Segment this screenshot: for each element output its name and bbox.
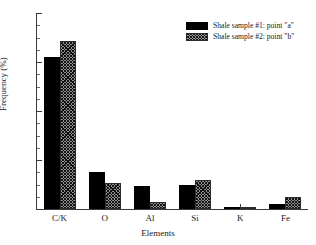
bar-k-series-0 [224,207,240,209]
y-axis-title: Frequency (%) [0,57,8,111]
y-axis-minor-tick [37,87,40,88]
legend: Shale sample #1: point "a" Shale sample … [186,22,294,44]
y-axis-minor-tick [37,74,40,75]
x-axis-tick [60,204,61,209]
x-axis-tick-label: K [237,213,244,223]
y-axis-minor-tick [37,50,40,51]
y-axis-tick [37,111,42,112]
y-axis-minor-tick [37,185,40,186]
x-axis-tick [105,204,106,209]
bar-o-series-1 [105,183,121,209]
legend-swatch-series-0-icon [186,22,208,30]
legend-label: Shale sample #2: point "b" [213,33,294,41]
y-axis-minor-tick [37,25,40,26]
y-axis-minor-tick [37,38,40,39]
y-axis-tick [37,209,42,210]
x-axis-tick-label: O [102,213,109,223]
y-axis-minor-tick [37,172,40,173]
y-axis-tick [37,160,42,161]
bar-al-series-0 [134,186,150,209]
x-axis-tick [285,204,286,209]
bar-si-series-0 [179,185,195,210]
bar-fe-series-1 [285,197,301,209]
legend-item: Shale sample #1: point "a" [186,22,294,30]
bar-c-k-series-1 [60,41,76,209]
y-axis-minor-tick [37,197,40,198]
bar-fe-series-0 [269,204,285,209]
x-axis-tick [150,204,151,209]
x-axis-tick-label: C/K [52,213,67,223]
legend-label: Shale sample #1: point "a" [213,22,294,30]
x-axis-tick-label: Si [191,213,199,223]
legend-swatch-series-1-icon [186,33,208,41]
bar-chart-figure: 020406080 C/KOAlSiKFe Frequency (%) Elem… [0,0,316,245]
x-axis-title: Elements [0,228,316,238]
bar-o-series-0 [89,172,105,209]
y-axis-minor-tick [37,123,40,124]
bar-c-k-series-0 [44,57,60,209]
y-axis-tick [37,13,42,14]
bar-k-series-1 [240,207,256,209]
x-axis-tick-label: Al [145,213,154,223]
bar-al-series-1 [150,202,166,209]
y-axis-minor-tick [37,148,40,149]
x-axis-tick-label: Fe [281,213,290,223]
x-axis-tick [195,204,196,209]
y-axis-minor-tick [37,136,40,137]
legend-item: Shale sample #2: point "b" [186,33,294,41]
y-axis-tick [37,62,42,63]
x-axis-tick [240,204,241,209]
y-axis-minor-tick [37,99,40,100]
bar-si-series-1 [195,180,211,209]
